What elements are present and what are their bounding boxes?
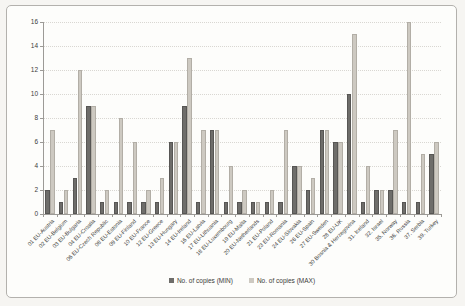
gridline — [43, 142, 441, 143]
bar-min — [265, 202, 269, 214]
x-axis-tick-mark — [70, 214, 71, 217]
bar-min — [141, 202, 145, 214]
legend-max-label: No. of copies (MAX) — [257, 277, 315, 284]
bar-min — [402, 202, 406, 214]
bar-min — [361, 202, 365, 214]
gridline — [43, 22, 441, 23]
x-axis-tick-mark — [208, 214, 209, 217]
gridline — [43, 46, 441, 47]
legend-item-max: No. of copies (MAX) — [249, 277, 315, 284]
bar-min — [169, 142, 173, 214]
bar-min — [416, 202, 420, 214]
x-axis-tick-mark — [317, 214, 318, 217]
bar-max — [105, 190, 109, 214]
bar-max — [78, 70, 82, 214]
gridline — [43, 118, 441, 119]
bar-min — [100, 202, 104, 214]
bar-min — [278, 202, 282, 214]
bar-max — [91, 106, 95, 214]
x-axis-tick-mark — [235, 214, 236, 217]
legend-item-min: No. of copies (MIN) — [169, 277, 233, 284]
x-axis-tick-mark — [414, 214, 415, 217]
bar-min — [210, 130, 214, 214]
bar-max — [50, 130, 54, 214]
y-axis-tick-label: 4 — [17, 162, 38, 169]
x-axis-tick-mark — [167, 214, 168, 217]
bar-max — [380, 190, 384, 214]
y-axis-tick-label: 6 — [17, 138, 38, 145]
bar-min — [224, 202, 228, 214]
plot-area: 024681012141601 EU-Austria02 EU-Belgium0… — [7, 6, 456, 297]
bar-max — [119, 118, 123, 214]
bar-min — [320, 130, 324, 214]
bar-min — [196, 202, 200, 214]
y-axis-tick-label: 8 — [17, 114, 38, 121]
bar-max — [366, 166, 370, 214]
x-axis-tick-mark — [386, 214, 387, 217]
bar-min — [182, 106, 186, 214]
bar-min — [292, 166, 296, 214]
gridline — [43, 94, 441, 95]
bar-max — [270, 190, 274, 214]
bar-max — [215, 130, 219, 214]
bar-min — [127, 202, 131, 214]
x-axis-tick-mark — [304, 214, 305, 217]
bar-min — [333, 142, 337, 214]
bar-max — [284, 130, 288, 214]
bar-max — [160, 178, 164, 214]
bar-max — [297, 166, 301, 214]
bar-min — [306, 190, 310, 214]
bar-min — [347, 94, 351, 214]
bar-min — [59, 202, 63, 214]
x-axis-tick-mark — [125, 214, 126, 217]
y-axis-tick-label: 14 — [17, 42, 38, 49]
x-axis-tick-mark — [84, 214, 85, 217]
gridline — [43, 166, 441, 167]
legend-min-label: No. of copies (MIN) — [177, 277, 233, 284]
bar-max — [146, 190, 150, 214]
legend: No. of copies (MIN) No. of copies (MAX) — [43, 277, 441, 284]
y-axis-tick-label: 0 — [17, 210, 38, 217]
bar-max — [229, 166, 233, 214]
bar-min — [237, 202, 241, 214]
y-axis-tick-label: 10 — [17, 90, 38, 97]
page: { "chart_data": { "type": "bar", "title"… — [0, 0, 465, 306]
x-axis-tick-mark — [57, 214, 58, 217]
bar-max — [64, 190, 68, 214]
x-axis-tick-mark — [331, 214, 332, 217]
x-axis-tick-mark — [221, 214, 222, 217]
bar-min — [388, 190, 392, 214]
bar-min — [86, 106, 90, 214]
bar-max — [201, 130, 205, 214]
bar-max — [311, 178, 315, 214]
x-axis-tick-mark — [345, 214, 346, 217]
x-axis-line — [43, 214, 441, 215]
y-axis-tick-label: 16 — [17, 18, 38, 25]
x-axis-tick-mark — [139, 214, 140, 217]
x-axis-tick-mark — [441, 214, 442, 217]
bar-max — [434, 142, 438, 214]
bar-min — [251, 202, 255, 214]
bar-max — [393, 130, 397, 214]
legend-min-swatch-icon — [169, 278, 174, 283]
x-axis-tick-mark — [276, 214, 277, 217]
bar-min — [45, 190, 49, 214]
chart-figure: 024681012141601 EU-Austria02 EU-Belgium0… — [6, 5, 457, 298]
legend-max-swatch-icon — [249, 278, 254, 283]
bar-max — [421, 154, 425, 214]
bar-min — [155, 202, 159, 214]
bar-min — [73, 178, 77, 214]
y-axis-line — [43, 22, 44, 214]
x-axis-tick-mark — [194, 214, 195, 217]
x-axis-tick-mark — [400, 214, 401, 217]
y-axis-tick-label: 12 — [17, 66, 38, 73]
x-axis-tick-mark — [359, 214, 360, 217]
bar-max — [174, 142, 178, 214]
bar-max — [256, 202, 260, 214]
x-axis-tick-mark — [43, 214, 44, 217]
bar-max — [407, 22, 411, 214]
bar-max — [242, 190, 246, 214]
x-axis-tick-mark — [263, 214, 264, 217]
x-axis-tick-mark — [112, 214, 113, 217]
bar-max — [352, 34, 356, 214]
